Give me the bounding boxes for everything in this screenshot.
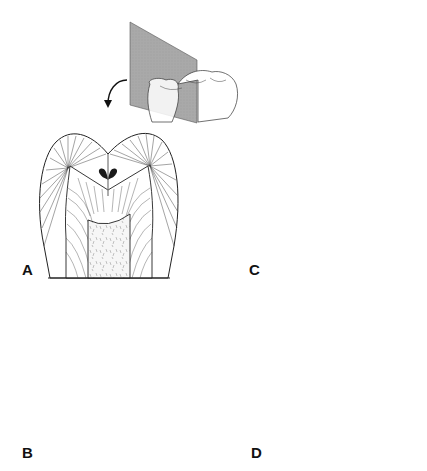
molar-front	[148, 78, 179, 122]
panel-label-a: A	[22, 261, 33, 278]
arrow-head	[104, 100, 112, 108]
panel-label-b: B	[22, 444, 33, 461]
sectioning-plane-inset	[104, 22, 238, 123]
panel-a-tooth	[40, 133, 178, 278]
panel-label-c: C	[249, 261, 260, 278]
panel-label-d: D	[251, 444, 262, 461]
figure-canvas	[0, 0, 427, 471]
